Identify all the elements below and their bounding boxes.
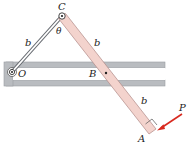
pin-c-center [61,15,63,17]
label-b-oc: b [25,37,31,48]
label-a: A [137,133,145,144]
label-p: P [178,102,186,113]
guide-upper-bar [6,62,165,68]
label-o: O [18,68,26,79]
guide-lower-bar [6,80,165,86]
label-b-point: B [88,68,96,79]
pin-b [105,72,107,74]
label-b-cb: b [94,37,100,48]
label-b-ba: b [141,95,147,106]
pin-o-center [11,71,13,73]
mechanism-diagram: C θ b b O B b P A [0,0,191,147]
diagram-svg: C θ b b O B b P A [0,0,191,147]
label-c: C [58,1,66,12]
label-theta: θ [56,26,62,36]
force-p-arrow [157,114,182,131]
